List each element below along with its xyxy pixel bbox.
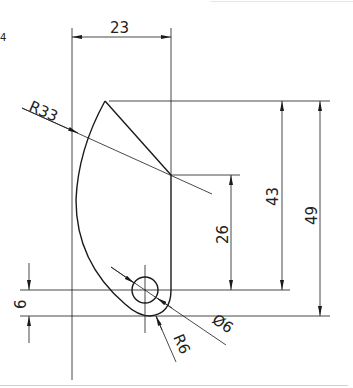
- dim-r33-text: R33: [26, 97, 60, 125]
- dim-49-text: 49: [303, 206, 321, 225]
- dim-23-text: 23: [110, 19, 129, 37]
- dim-26-text: 26: [214, 225, 232, 244]
- technical-drawing: 4: [0, 0, 353, 388]
- diagonal-edge: [105, 101, 171, 175]
- dim-r6-text: R6: [169, 331, 194, 357]
- dim-diameter-text: Ø6: [209, 310, 237, 337]
- dim-6-text: 6: [12, 299, 30, 309]
- part-outline: [76, 101, 171, 316]
- r6-arrow: [156, 316, 162, 330]
- bottom-border-line: [0, 385, 348, 386]
- r33-arc: [76, 101, 125, 304]
- dimension-lines: [20, 28, 330, 380]
- diameter-arrow-in: [111, 267, 134, 283]
- dim-43-text: 43: [264, 187, 282, 206]
- corner-mark-text: 4: [0, 32, 6, 43]
